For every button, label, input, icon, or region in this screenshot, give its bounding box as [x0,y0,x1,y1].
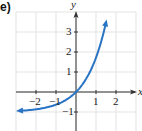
curve-right-arrow-icon [102,19,108,26]
y-tick-label-3: 3 [66,26,72,37]
x-axis-label: x [138,86,142,97]
y-tick-label-neg1: −1 [62,106,74,117]
x-tick-label-2: 2 [113,96,119,107]
y-tick-label-1: 1 [66,66,72,77]
y-tick-label-2: 2 [66,46,72,57]
x-tick-label-neg1: −1 [49,96,61,107]
x-tick-label-1: 1 [93,96,99,107]
x-tick-label-neg2: −2 [29,96,41,107]
curve-left-arrow-icon [16,108,23,114]
y-axis-label: y [71,0,76,10]
